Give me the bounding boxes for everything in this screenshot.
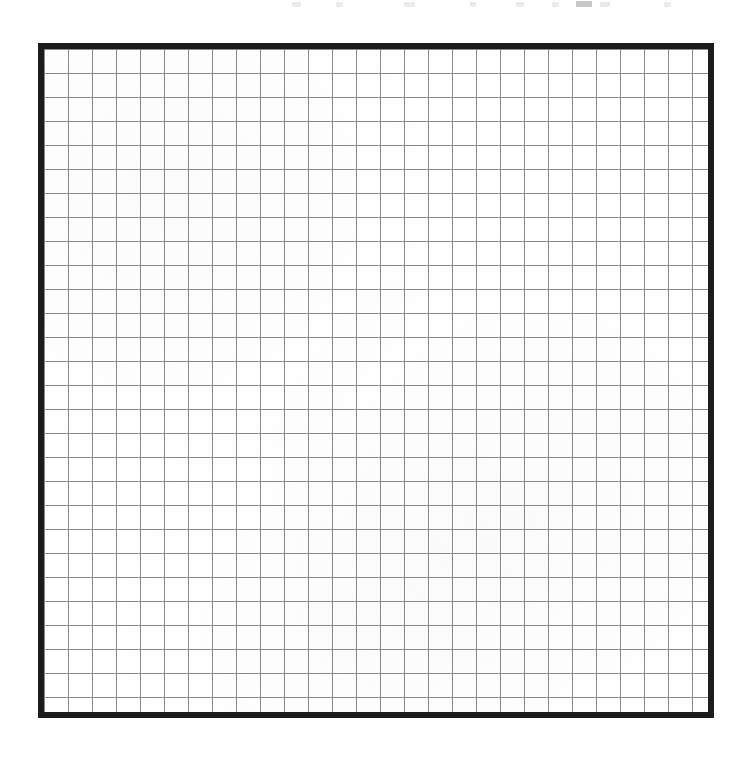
scan-speck-7 <box>600 2 610 7</box>
scan-artifact-strip <box>0 0 742 10</box>
scanned-page <box>0 0 742 757</box>
scan-speck-8 <box>664 2 671 7</box>
graph-paper-grid <box>44 49 708 712</box>
scan-speck-1 <box>336 2 343 7</box>
grid-frame <box>38 43 714 718</box>
scan-speck-3 <box>470 2 476 7</box>
scan-speck-0 <box>292 2 301 7</box>
scan-speck-5 <box>552 2 559 7</box>
scan-speck-2 <box>404 2 415 7</box>
scan-speck-6 <box>576 1 592 7</box>
scan-speck-4 <box>516 2 524 7</box>
